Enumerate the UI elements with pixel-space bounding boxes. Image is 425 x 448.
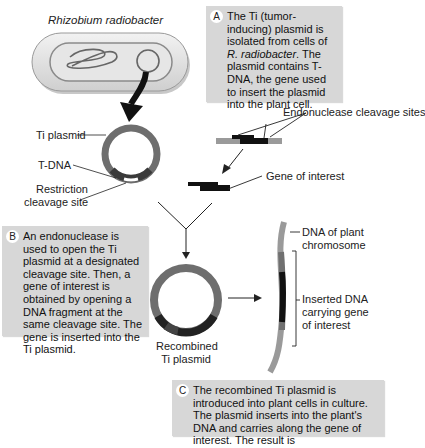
step-c-text: The recombined Ti plasmid is introduced … bbox=[172, 380, 384, 448]
label-t-dna: T-DNA bbox=[38, 159, 71, 172]
label-inserted-dna: Inserted DNA carrying gene of interest bbox=[302, 293, 369, 332]
step-a-box: A The Ti (tumor-inducing) plasmid is iso… bbox=[206, 6, 342, 102]
step-a-text: The Ti (tumor-inducing) plasmid is isola… bbox=[206, 6, 342, 115]
step-b-badge: B bbox=[6, 230, 19, 243]
label-recombined-plasmid: Recombined Ti plasmid bbox=[156, 340, 216, 366]
label-plant-dna: DNA of plant chromosome bbox=[302, 226, 366, 252]
label-restriction-site-2: cleavage site bbox=[24, 196, 88, 209]
step-b-box: B An endonuclease is used to open the Ti… bbox=[2, 226, 148, 336]
step-c-badge: C bbox=[176, 384, 189, 397]
step-a-badge: A bbox=[210, 10, 223, 23]
step-b-text: An endonuclease is used to open the Ti p… bbox=[2, 226, 148, 360]
bacterium-cell-icon bbox=[32, 33, 190, 94]
organism-name: Rhizobium radiobacter bbox=[48, 14, 163, 27]
label-gene-of-interest: Gene of interest bbox=[266, 170, 344, 183]
arrow-down-icon bbox=[120, 102, 143, 122]
label-endonuclease-sites: Endonuclease cleavage sites bbox=[283, 106, 425, 119]
step-c-box: C The recombined Ti plasmid is introduce… bbox=[172, 380, 384, 436]
label-ti-plasmid: Ti plasmid bbox=[36, 129, 86, 142]
label-restriction-site: Restriction bbox=[36, 183, 80, 196]
